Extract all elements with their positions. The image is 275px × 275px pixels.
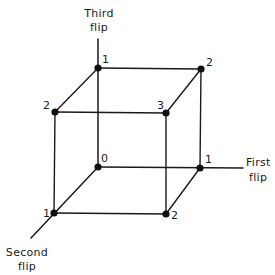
- vertex-second-third: [51, 108, 58, 115]
- vertex-first-axis: [196, 164, 203, 171]
- edge-left-front: [54, 112, 55, 213]
- vertex-third-axis: [94, 64, 101, 71]
- first-flip-label-line2: flip: [249, 171, 267, 184]
- first-flip-axis: [98, 167, 243, 168]
- label-second-axis: 1: [43, 207, 50, 220]
- edge-bottom-front: [54, 213, 166, 214]
- cube-diagram: 0 1 1 1 2 2 2 3 Third flip First flip Se…: [0, 0, 275, 275]
- vertex-first-third: [197, 65, 204, 72]
- vertex-first-second: [162, 210, 169, 217]
- edge-diag-bottom-right: [166, 168, 200, 214]
- edge-right-back: [200, 69, 201, 168]
- label-origin: 0: [101, 152, 108, 165]
- third-flip-label-line2: flip: [90, 21, 108, 34]
- edge-diag-top-right: [166, 69, 201, 113]
- third-flip-label-line1: Third: [83, 7, 114, 20]
- second-flip-axis: [31, 167, 98, 238]
- label-first-third: 2: [206, 56, 213, 69]
- edge-top-front: [55, 112, 166, 113]
- first-flip-label-line1: First: [246, 156, 271, 169]
- label-first-second: 2: [171, 209, 178, 222]
- vertex-second-axis: [50, 209, 57, 216]
- second-flip-label-line2: flip: [18, 260, 36, 273]
- edge-diag-top-left: [55, 68, 98, 112]
- label-second-third: 2: [43, 99, 50, 112]
- edge-top-back: [98, 68, 201, 69]
- label-all-three: 3: [157, 99, 164, 112]
- second-flip-label-line1: Second: [6, 246, 48, 259]
- label-first-axis: 1: [205, 153, 212, 166]
- label-third-axis: 1: [102, 53, 109, 66]
